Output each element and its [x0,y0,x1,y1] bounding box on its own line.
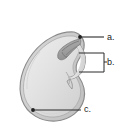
label-a: a. [107,33,115,42]
label-c: c. [84,105,91,114]
seed-anatomy-figure: a. b. c. [0,0,127,131]
label-b: b. [107,58,115,67]
